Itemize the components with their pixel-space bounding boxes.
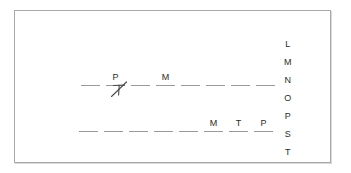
answer-slot-blank[interactable] [154, 109, 173, 132]
letter-bank-item[interactable]: S [285, 125, 291, 143]
answer-slot-letter: P [260, 118, 266, 131]
letter-bank-item[interactable]: M [284, 53, 292, 71]
answer-slot-blank[interactable] [81, 63, 100, 86]
answer-slot-letter: M [162, 72, 170, 85]
letter-bank-item[interactable]: O [284, 89, 291, 107]
answer-slot-filled[interactable]: M [156, 63, 175, 86]
answer-slot-blank[interactable] [129, 109, 148, 132]
answer-slot-filled[interactable]: P [106, 63, 125, 86]
answer-slot-blank[interactable] [104, 109, 123, 132]
letter-bank-item[interactable]: P [285, 107, 291, 125]
answer-slot-letter: M [210, 118, 218, 131]
answer-slot-blank[interactable] [231, 63, 250, 86]
letter-bank-item[interactable]: N [285, 71, 292, 89]
answer-slot-blank[interactable] [179, 109, 198, 132]
worksheet-frame: PM MTP LMNOPST [14, 10, 331, 163]
answer-slot-blank[interactable] [206, 63, 225, 86]
answer-slot-letter: P [112, 72, 118, 85]
answer-slot-letter: T [236, 118, 242, 131]
answer-row-2: MTP [79, 109, 279, 132]
answer-slot-filled[interactable]: M [204, 109, 223, 132]
answer-row-1: PM [81, 63, 281, 86]
letter-bank: LMNOPST [277, 35, 299, 161]
answer-slot-blank[interactable] [256, 63, 275, 86]
answer-slot-blank[interactable] [181, 63, 200, 86]
letter-bank-item[interactable]: L [285, 35, 290, 53]
answer-slot-blank[interactable] [79, 109, 98, 132]
answer-slot-filled[interactable]: P [254, 109, 273, 132]
worksheet-canvas: PM MTP LMNOPST [0, 0, 351, 173]
answer-slot-filled[interactable]: T [229, 109, 248, 132]
letter-bank-item[interactable]: T [285, 143, 291, 161]
answer-slot-blank[interactable] [131, 63, 150, 86]
